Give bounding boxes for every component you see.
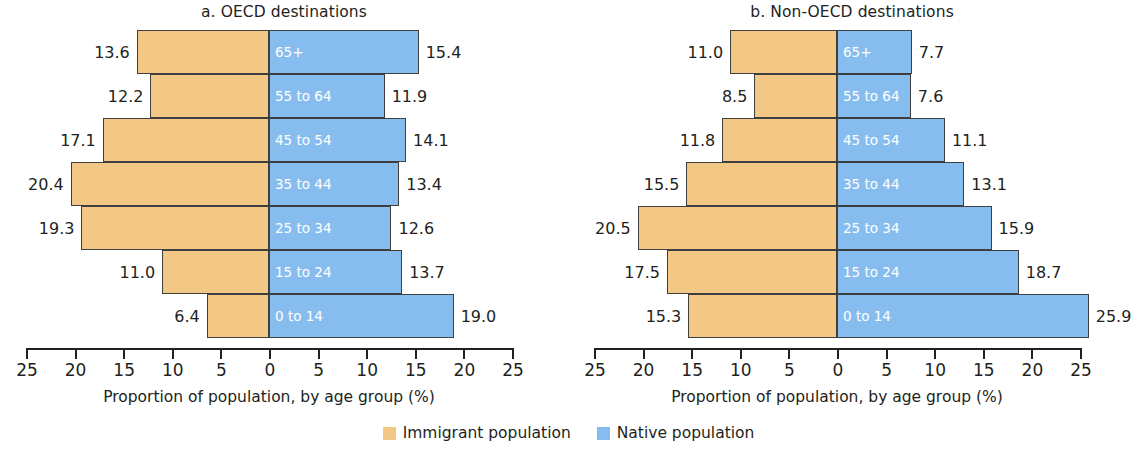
legend-swatch-native bbox=[597, 427, 610, 440]
bar-immigrant[interactable] bbox=[638, 206, 837, 250]
bar-native[interactable] bbox=[269, 162, 399, 206]
value-label-native: 12.6 bbox=[391, 206, 568, 250]
x-axis-tick bbox=[172, 350, 174, 359]
value-label-native: 15.4 bbox=[419, 30, 568, 74]
bar-native[interactable] bbox=[837, 294, 1089, 338]
x-axis-tick-label: 10 bbox=[721, 360, 761, 380]
panel-title-b: b. Non-OECD destinations bbox=[568, 3, 1136, 21]
x-axis-title-b: Proportion of population, by age group (… bbox=[594, 388, 1080, 406]
bar-immigrant[interactable] bbox=[162, 250, 269, 294]
pyramid-row: 45 to 5411.811.1 bbox=[568, 118, 1136, 162]
value-label-native: 18.7 bbox=[1019, 250, 1136, 294]
value-label-native: 19.0 bbox=[454, 294, 568, 338]
pyramid-row: 0 to 146.419.0 bbox=[0, 294, 568, 338]
bar-native[interactable] bbox=[837, 118, 945, 162]
legend-item-immigrant: Immigrant population bbox=[383, 424, 571, 442]
x-axis-tick-label: 10 bbox=[347, 360, 387, 380]
x-axis-tick-label: 15 bbox=[396, 360, 436, 380]
bar-native[interactable] bbox=[269, 74, 385, 118]
x-axis-tick bbox=[1080, 350, 1082, 359]
value-label-native: 11.1 bbox=[945, 118, 1136, 162]
pyramid-row: 55 to 648.57.6 bbox=[568, 74, 1136, 118]
x-axis-tick-label: 20 bbox=[56, 360, 96, 380]
bar-immigrant[interactable] bbox=[722, 118, 837, 162]
legend-item-native: Native population bbox=[597, 424, 755, 442]
value-label-immigrant: 6.4 bbox=[0, 294, 207, 338]
value-label-native: 13.4 bbox=[399, 162, 568, 206]
bar-native[interactable] bbox=[269, 206, 391, 250]
bar-immigrant[interactable] bbox=[207, 294, 269, 338]
x-axis-tick-label: 20 bbox=[444, 360, 484, 380]
bar-immigrant[interactable] bbox=[150, 74, 269, 118]
pyramid-row: 35 to 4415.513.1 bbox=[568, 162, 1136, 206]
legend-swatch-immigrant bbox=[383, 427, 396, 440]
x-axis-tick bbox=[594, 350, 596, 359]
bar-immigrant[interactable] bbox=[754, 74, 837, 118]
x-axis-tick bbox=[740, 350, 742, 359]
bar-native[interactable] bbox=[837, 30, 912, 74]
plot-area-a: 65+13.615.455 to 6412.211.945 to 5417.11… bbox=[0, 30, 568, 343]
bar-native[interactable] bbox=[837, 250, 1019, 294]
x-axis-tick bbox=[643, 350, 645, 359]
bar-native[interactable] bbox=[269, 30, 419, 74]
bar-native[interactable] bbox=[837, 74, 911, 118]
x-axis-tick-label: 0 bbox=[818, 360, 858, 380]
value-label-immigrant: 12.2 bbox=[0, 74, 150, 118]
bar-immigrant[interactable] bbox=[686, 162, 837, 206]
panel-non-oecd-destinations: b. Non-OECD destinations 65+11.07.755 to… bbox=[568, 0, 1136, 418]
bar-native[interactable] bbox=[837, 162, 964, 206]
x-axis-tick-label: 5 bbox=[201, 360, 241, 380]
x-axis-tick-label: 15 bbox=[104, 360, 144, 380]
x-axis-tick bbox=[837, 350, 839, 359]
pyramid-row: 65+11.07.7 bbox=[568, 30, 1136, 74]
bar-native[interactable] bbox=[269, 250, 402, 294]
x-axis-tick-label: 15 bbox=[672, 360, 712, 380]
x-axis-tick-label: 20 bbox=[1012, 360, 1052, 380]
x-axis-tick bbox=[26, 350, 28, 359]
value-label-immigrant: 19.3 bbox=[0, 206, 81, 250]
bar-immigrant[interactable] bbox=[667, 250, 837, 294]
x-axis-tick-label: 25 bbox=[1061, 360, 1101, 380]
bar-immigrant[interactable] bbox=[688, 294, 837, 338]
pyramid-row: 65+13.615.4 bbox=[0, 30, 568, 74]
panel-title-a: a. OECD destinations bbox=[0, 3, 568, 21]
x-axis-tick-label: 25 bbox=[7, 360, 47, 380]
value-label-immigrant: 17.1 bbox=[0, 118, 103, 162]
x-axis-tick bbox=[75, 350, 77, 359]
x-axis-tick-label: 20 bbox=[624, 360, 664, 380]
bar-immigrant[interactable] bbox=[71, 162, 269, 206]
bar-immigrant[interactable] bbox=[730, 30, 837, 74]
value-label-immigrant: 11.0 bbox=[568, 30, 730, 74]
value-label-immigrant: 13.6 bbox=[0, 30, 137, 74]
x-axis-tick bbox=[415, 350, 417, 359]
pyramid-row: 35 to 4420.413.4 bbox=[0, 162, 568, 206]
pyramid-row: 55 to 6412.211.9 bbox=[0, 74, 568, 118]
x-axis-tick bbox=[886, 350, 888, 359]
value-label-immigrant: 17.5 bbox=[568, 250, 667, 294]
value-label-native: 15.9 bbox=[992, 206, 1136, 250]
value-label-native: 7.7 bbox=[912, 30, 1136, 74]
value-label-native: 14.1 bbox=[406, 118, 568, 162]
x-axis-tick bbox=[220, 350, 222, 359]
value-label-native: 11.9 bbox=[385, 74, 568, 118]
x-axis-tick bbox=[788, 350, 790, 359]
x-axis-tick bbox=[366, 350, 368, 359]
bar-native[interactable] bbox=[837, 206, 992, 250]
value-label-immigrant: 20.5 bbox=[568, 206, 638, 250]
x-axis-tick bbox=[691, 350, 693, 359]
value-label-native: 13.7 bbox=[402, 250, 568, 294]
x-axis-tick-label: 5 bbox=[299, 360, 339, 380]
panel-oecd-destinations: a. OECD destinations 65+13.615.455 to 64… bbox=[0, 0, 568, 418]
bar-immigrant[interactable] bbox=[103, 118, 269, 162]
x-axis-tick bbox=[318, 350, 320, 359]
x-axis-tick bbox=[983, 350, 985, 359]
value-label-immigrant: 15.3 bbox=[568, 294, 688, 338]
legend-label-immigrant: Immigrant population bbox=[403, 424, 571, 442]
x-axis-tick-label: 10 bbox=[915, 360, 955, 380]
value-label-native: 25.9 bbox=[1089, 294, 1136, 338]
bar-immigrant[interactable] bbox=[137, 30, 269, 74]
bar-native[interactable] bbox=[269, 118, 406, 162]
bar-native[interactable] bbox=[269, 294, 454, 338]
bar-immigrant[interactable] bbox=[81, 206, 269, 250]
x-axis-tick bbox=[1031, 350, 1033, 359]
